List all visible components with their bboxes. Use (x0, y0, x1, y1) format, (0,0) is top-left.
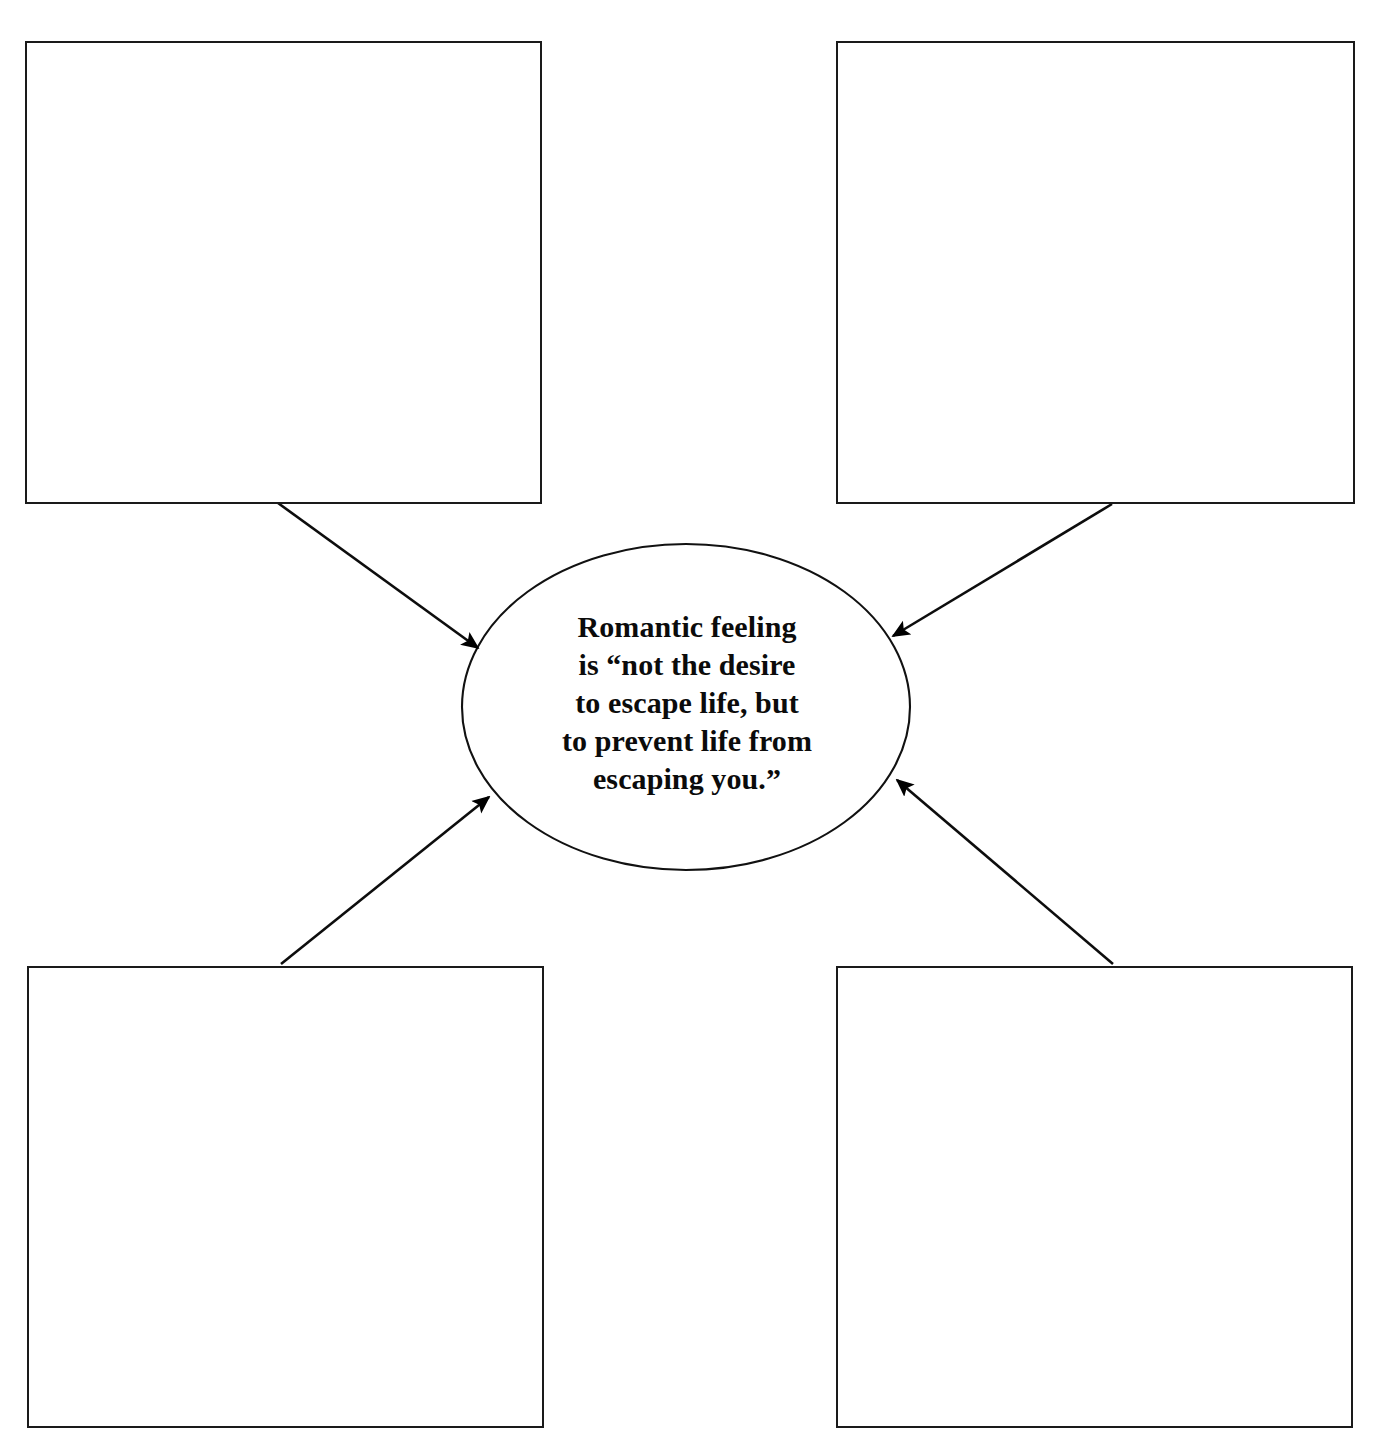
response-box-bottom-left[interactable] (27, 966, 544, 1428)
response-box-bottom-right[interactable] (836, 966, 1353, 1428)
arrow-bottom-right-to-center (897, 780, 1113, 964)
response-box-bottom-right-text[interactable] (838, 968, 1351, 996)
response-box-top-left[interactable] (25, 41, 542, 504)
arrow-top-left-to-center (278, 503, 478, 648)
arrow-top-right-to-center (893, 504, 1112, 636)
response-box-top-right[interactable] (836, 41, 1355, 504)
response-box-top-right-text[interactable] (838, 43, 1353, 71)
arrow-bottom-left-to-center (281, 797, 489, 964)
response-box-top-left-text[interactable] (27, 43, 540, 71)
response-box-bottom-left-text[interactable] (29, 968, 542, 996)
center-oval-quote: Romantic feeling is “not the desire to e… (497, 608, 877, 798)
worksheet-canvas: Romantic feeling is “not the desire to e… (0, 0, 1384, 1449)
